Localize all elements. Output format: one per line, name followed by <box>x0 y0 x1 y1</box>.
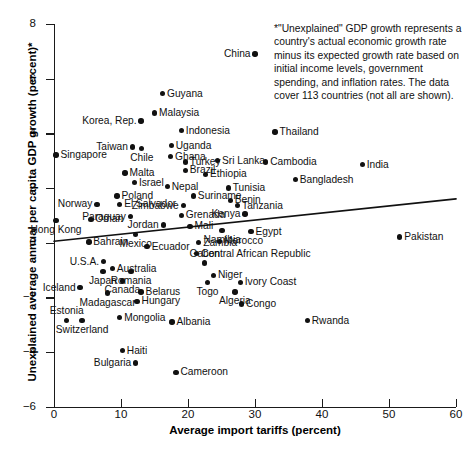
data-point <box>203 172 208 177</box>
x-tick-label-0: 0 <box>39 409 69 421</box>
data-point <box>160 91 165 96</box>
data-point <box>238 280 243 285</box>
data-point <box>130 144 135 149</box>
data-point-label: Mongolia <box>124 313 165 323</box>
data-point <box>169 143 174 148</box>
data-point-label: Jordan <box>128 220 159 230</box>
data-point-label: Bahrain <box>93 237 128 247</box>
data-point-label: Estonia <box>50 306 84 316</box>
data-point <box>305 318 310 323</box>
data-point <box>117 202 122 207</box>
data-point <box>114 193 119 198</box>
data-point-label: Madagascar <box>80 298 136 308</box>
data-point <box>138 289 143 294</box>
data-point <box>168 154 173 159</box>
data-point-label: Korea, Rep. <box>82 116 136 126</box>
data-point <box>252 51 257 56</box>
data-point-label: Israel <box>139 177 164 187</box>
y-tick-8 <box>46 24 54 25</box>
data-point-label: Bangladesh <box>300 175 354 185</box>
x-tick-60 <box>456 399 457 407</box>
data-point-label: Kenya <box>212 209 241 219</box>
data-point <box>242 211 247 216</box>
data-point-label: Congo <box>246 299 276 309</box>
data-point <box>165 184 170 189</box>
data-point <box>100 269 105 274</box>
data-point <box>77 285 82 290</box>
data-point <box>211 273 216 278</box>
data-point-label: Pakistan <box>404 232 443 242</box>
data-point <box>397 234 402 239</box>
data-point-label: Uganda <box>176 141 212 151</box>
data-point <box>79 318 84 323</box>
data-point-label: Norway <box>58 199 93 209</box>
data-point <box>239 301 244 306</box>
data-point-label: Ethiopia <box>210 169 247 179</box>
x-tick-label-30: 30 <box>240 409 270 421</box>
data-point-label: U.S.A. <box>70 257 99 267</box>
data-point-label: Niger <box>218 270 242 280</box>
data-point-label: Guyana <box>167 89 203 99</box>
data-point-label: Sri Lanka <box>222 156 265 166</box>
data-point-label: Indonesia <box>186 125 230 135</box>
data-point <box>183 159 188 164</box>
x-tick-40 <box>322 399 323 407</box>
data-point <box>128 269 133 274</box>
data-point-label: Haiti <box>127 345 147 355</box>
y-tick-6 <box>46 79 54 80</box>
data-point <box>232 289 237 294</box>
y-tick-2 <box>46 188 54 189</box>
data-point <box>217 239 222 244</box>
data-point-label: India <box>367 160 389 170</box>
y-tick-label--6: −6 <box>10 401 36 413</box>
data-point <box>179 213 184 218</box>
data-point <box>293 177 298 182</box>
data-point-label: Malaysia <box>159 108 199 118</box>
data-point-label: Mali <box>195 221 214 231</box>
data-point-label: Morocco <box>224 236 263 246</box>
data-point <box>228 198 233 203</box>
data-point <box>53 218 58 223</box>
data-point-label: Hungary <box>142 296 181 306</box>
data-point-label: Togo <box>196 287 218 297</box>
data-point <box>205 280 210 285</box>
x-tick-0 <box>54 399 55 407</box>
data-point <box>263 159 268 164</box>
data-point <box>101 259 106 264</box>
data-point <box>169 319 174 324</box>
x-axis-title: Average import tariffs (percent) <box>54 424 456 436</box>
annotation-note: *"Unexplained" GDP growth represents a c… <box>274 22 464 102</box>
data-point-label: Cambodia <box>270 157 316 167</box>
data-point <box>94 202 99 207</box>
y-tick-0 <box>46 243 54 244</box>
x-tick-20 <box>188 399 189 407</box>
data-point <box>139 146 144 151</box>
data-point <box>133 232 138 237</box>
data-point-label: Thailand <box>280 127 319 137</box>
data-point <box>173 370 178 375</box>
y-axis-line <box>54 24 55 407</box>
data-point <box>64 318 69 323</box>
data-point <box>53 152 58 157</box>
data-point-label: Cameroon <box>180 367 228 377</box>
data-point <box>248 229 253 234</box>
data-point <box>133 360 138 365</box>
y-tick--2 <box>46 297 54 298</box>
data-point <box>161 222 166 227</box>
data-point <box>152 110 157 115</box>
data-point <box>183 168 188 173</box>
x-tick-label-50: 50 <box>374 409 404 421</box>
data-point-label: Albania <box>176 317 210 327</box>
data-point-label: Iceland <box>43 283 76 293</box>
data-point <box>202 260 207 265</box>
data-point-label: Singapore <box>61 150 107 160</box>
scatter-plot-figure: −6−4−202468 0102030405060 Unexplained av… <box>0 0 468 459</box>
data-point-label: Oman <box>95 214 123 224</box>
y-tick--4 <box>46 352 54 353</box>
data-point-label: Tanzania <box>242 201 283 211</box>
data-point-label: Gabon <box>189 248 220 258</box>
data-point-label: Bulgaria <box>94 358 131 368</box>
data-point <box>134 299 139 304</box>
data-point <box>219 228 224 233</box>
data-point-label: China <box>224 49 251 59</box>
